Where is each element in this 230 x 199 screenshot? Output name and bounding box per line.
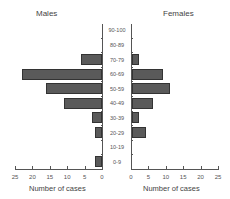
male-bar xyxy=(22,69,102,80)
y-tick xyxy=(101,169,103,170)
x-tick xyxy=(15,166,16,169)
male-bar xyxy=(95,156,102,167)
male-bar xyxy=(64,98,102,109)
y-tick xyxy=(131,52,133,53)
age-label: 70-79 xyxy=(104,57,130,63)
male-bar xyxy=(81,54,102,65)
x-tick xyxy=(183,166,184,169)
y-tick xyxy=(101,125,103,126)
x-tick xyxy=(166,166,167,169)
age-label: 80-89 xyxy=(104,42,130,48)
age-label: 20-29 xyxy=(104,130,130,136)
female-bar xyxy=(132,127,146,138)
males-y-axis xyxy=(102,24,103,170)
females-title: Females xyxy=(163,9,194,18)
x-tick xyxy=(67,166,68,169)
y-tick xyxy=(131,67,133,68)
female-bar xyxy=(132,98,153,109)
male-bar xyxy=(46,83,102,94)
female-bar xyxy=(132,54,139,65)
age-label: 60-69 xyxy=(104,71,130,77)
y-tick xyxy=(131,38,133,39)
females-xlabel: Number of cases xyxy=(143,184,200,193)
x-tick-label: 5 xyxy=(83,174,86,180)
x-tick-label: 10 xyxy=(162,174,169,180)
y-tick xyxy=(131,111,133,112)
x-tick xyxy=(201,166,202,169)
x-tick-label: 15 xyxy=(180,174,187,180)
y-tick xyxy=(131,140,133,141)
x-tick-label: 10 xyxy=(64,174,71,180)
y-tick xyxy=(101,81,103,82)
males-x-axis xyxy=(15,169,103,170)
male-bar xyxy=(95,127,102,138)
x-tick-label: 0 xyxy=(129,174,132,180)
x-tick-label: 25 xyxy=(12,174,19,180)
x-tick-label: 20 xyxy=(197,174,204,180)
x-tick-label: 25 xyxy=(215,174,222,180)
x-tick xyxy=(50,166,51,169)
female-bar xyxy=(132,69,163,80)
y-tick xyxy=(101,52,103,53)
females-x-axis xyxy=(131,169,219,170)
x-tick xyxy=(85,166,86,169)
y-tick xyxy=(101,154,103,155)
x-tick-label: 0 xyxy=(100,174,103,180)
y-tick xyxy=(131,169,133,170)
x-tick-label: 5 xyxy=(147,174,150,180)
y-tick xyxy=(131,154,133,155)
y-tick xyxy=(131,96,133,97)
y-tick xyxy=(101,38,103,39)
age-label: 10-19 xyxy=(104,144,130,150)
age-label: 30-39 xyxy=(104,115,130,121)
age-label: 0-9 xyxy=(104,159,130,165)
males-xlabel: Number of cases xyxy=(29,184,86,193)
y-tick xyxy=(101,96,103,97)
y-tick xyxy=(101,67,103,68)
age-label: 90-100 xyxy=(104,27,130,33)
y-tick xyxy=(131,81,133,82)
x-tick xyxy=(32,166,33,169)
x-tick xyxy=(102,166,103,169)
y-tick xyxy=(101,111,103,112)
x-tick xyxy=(131,166,132,169)
female-bar xyxy=(132,112,139,123)
x-tick-label: 15 xyxy=(46,174,53,180)
y-tick xyxy=(131,125,133,126)
male-bar xyxy=(92,112,102,123)
female-bar xyxy=(132,83,170,94)
y-tick xyxy=(101,140,103,141)
x-tick xyxy=(148,166,149,169)
x-tick-label: 20 xyxy=(29,174,36,180)
x-tick xyxy=(218,166,219,169)
males-title: Males xyxy=(36,9,57,18)
age-label: 40-49 xyxy=(104,100,130,106)
age-label: 50-59 xyxy=(104,86,130,92)
